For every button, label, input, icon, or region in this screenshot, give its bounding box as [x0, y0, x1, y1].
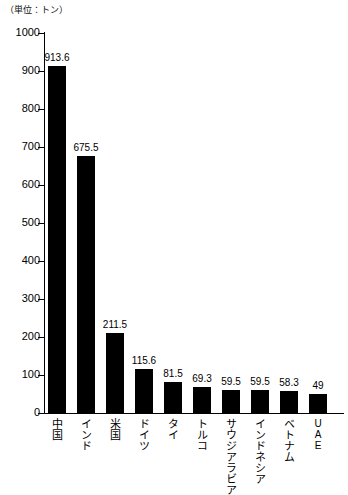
bar-item[interactable]: 675.5インド — [77, 156, 95, 413]
x-axis-category-label: サウジアラビア — [225, 418, 237, 495]
x-axis-line — [44, 413, 344, 414]
bar-value-label: 58.3 — [279, 377, 298, 389]
y-axis-tick-mark — [38, 223, 45, 224]
bar-item[interactable]: 913.6中国 — [48, 66, 66, 413]
y-axis-tick-mark — [38, 185, 45, 186]
y-axis-tick-mark — [38, 375, 45, 376]
bar-rect[interactable] — [309, 394, 327, 413]
bar-item[interactable]: 81.5タイ — [164, 382, 182, 413]
unit-caption: （単位：トン） — [5, 4, 68, 16]
bar-rect[interactable] — [135, 369, 153, 413]
y-axis-tick-mark — [38, 337, 45, 338]
y-axis-tick-mark — [38, 299, 45, 300]
bar-value-label: 59.5 — [221, 376, 240, 388]
bar-item[interactable]: 115.6ドイツ — [135, 369, 153, 413]
bar-rect[interactable] — [48, 66, 66, 413]
y-axis-tick-mark — [38, 109, 45, 110]
bar-item[interactable]: 59.5サウジアラビア — [222, 390, 240, 413]
bar-rect[interactable] — [193, 387, 211, 413]
bar-rect[interactable] — [106, 333, 124, 413]
x-axis-category-label: インド — [80, 418, 92, 451]
bar-value-label: 913.6 — [44, 52, 69, 64]
bar-value-label: 59.5 — [250, 376, 269, 388]
x-axis-category-label: 米国 — [109, 418, 121, 440]
y-axis-tick-mark — [38, 33, 45, 34]
bar-value-label: 69.3 — [192, 373, 211, 385]
y-axis-tick-label: 1000 — [16, 26, 40, 39]
bar-item[interactable]: 58.3ベトナム — [280, 391, 298, 413]
bar-rect[interactable] — [280, 391, 298, 413]
bar-rect[interactable] — [251, 390, 269, 413]
bar-item[interactable]: 49UAE — [309, 394, 327, 413]
bar-item[interactable]: 211.5米国 — [106, 333, 124, 413]
bar-item[interactable]: 59.5インドネシア — [251, 390, 269, 413]
y-axis-tick-mark — [38, 413, 45, 414]
x-axis-category-label: 中国 — [51, 418, 63, 440]
x-axis-category-label: ドイツ — [138, 418, 150, 451]
x-axis-category-label: ベトナム — [283, 418, 295, 462]
y-axis-tick-mark — [38, 261, 45, 262]
bar-value-label: 211.5 — [103, 319, 127, 331]
x-axis-category-label: インドネシア — [254, 418, 266, 484]
bar-value-label: 115.6 — [132, 355, 156, 367]
bar-value-label: 49 — [312, 380, 323, 392]
bar-value-label: 81.5 — [163, 368, 182, 380]
bar-value-label: 675.5 — [73, 142, 98, 154]
y-axis-tick-mark — [38, 71, 45, 72]
bar-item[interactable]: 69.3トルコ — [193, 387, 211, 413]
x-axis-category-label: タイ — [167, 418, 179, 440]
bar-rect[interactable] — [77, 156, 95, 413]
x-axis-category-label: トルコ — [196, 418, 208, 451]
x-axis-category-label: UAE — [313, 418, 324, 451]
bar-rect[interactable] — [164, 382, 182, 413]
bar-rect[interactable] — [222, 390, 240, 413]
y-axis-tick-mark — [38, 147, 45, 148]
